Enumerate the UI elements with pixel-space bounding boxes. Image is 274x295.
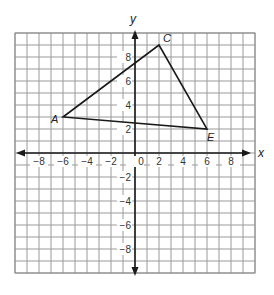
- x-tick-label: −4: [81, 156, 93, 167]
- y-tick-label: 6: [125, 76, 131, 87]
- y-axis-label: y: [129, 12, 137, 26]
- x-axis-label: x: [257, 146, 265, 160]
- vertex-label-c: C: [163, 32, 171, 44]
- y-tick-label: 4: [125, 100, 131, 111]
- y-axis-up-arrow-icon: [132, 30, 139, 39]
- vertex-label-e: E: [207, 131, 215, 143]
- y-tick-label: −6: [120, 220, 132, 231]
- y-tick-label: −4: [120, 196, 132, 207]
- y-tick-label: −8: [120, 244, 132, 255]
- x-axis-left-arrow-icon: [16, 150, 25, 157]
- vertex-label-a: A: [50, 113, 58, 125]
- x-tick-label: 6: [204, 156, 210, 167]
- x-tick-label: −2: [105, 156, 117, 167]
- x-tick-label: −6: [57, 156, 69, 167]
- x-axis-right-arrow-icon: [242, 150, 251, 157]
- y-tick-label: 2: [125, 124, 131, 135]
- y-axis-down-arrow-icon: [132, 267, 139, 276]
- x-tick-label: 0: [138, 156, 144, 167]
- x-tick-label: −8: [33, 156, 45, 167]
- x-tick-label: 4: [180, 156, 186, 167]
- y-tick-label: 8: [125, 52, 131, 63]
- axes: x y: [16, 12, 265, 276]
- x-tick-label: 2: [156, 156, 162, 167]
- y-tick-label: −2: [120, 172, 132, 183]
- x-tick-label: 8: [228, 156, 234, 167]
- coordinate-plane: x y −8−6−4−2024688642−2−4−6−8 ACE: [0, 0, 274, 295]
